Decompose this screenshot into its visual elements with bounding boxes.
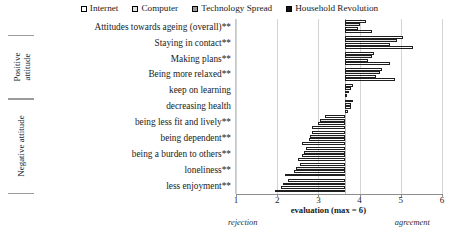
bar (275, 190, 345, 193)
legend-label-technology-spread: Technology Spread (201, 4, 272, 13)
bar-group (236, 83, 442, 99)
bar (310, 135, 345, 138)
bar (345, 52, 374, 55)
group-label: Negative attitude (16, 115, 26, 177)
bar (294, 170, 346, 173)
bar-group (236, 146, 442, 162)
bar (312, 131, 345, 134)
bar (302, 142, 345, 145)
chart-container: Internet Computer Technology Spread Hous… (0, 0, 459, 237)
legend-item-household-revolution: Household Revolution (286, 4, 378, 13)
bar (345, 71, 380, 74)
bar (345, 78, 394, 81)
legend-label-computer: Computer (141, 4, 178, 13)
bar-group (236, 67, 442, 83)
bar (345, 68, 382, 71)
bar (320, 119, 345, 122)
bar (281, 186, 345, 189)
category-label: being a burden to others** (33, 149, 231, 159)
category-label: decreasing health (33, 101, 231, 111)
category-label: being less fit and lively** (33, 117, 231, 127)
bar (318, 122, 345, 125)
tick-label-4: 4 (352, 195, 368, 205)
legend-item-technology-spread: Technology Spread (192, 4, 272, 13)
tick-label-1: 1 (228, 195, 244, 205)
legend-swatch-household-revolution (286, 6, 292, 12)
bar (345, 106, 350, 109)
bar (345, 110, 348, 113)
plot-area (236, 19, 442, 194)
bar (345, 43, 390, 46)
category-label: loneliness** (33, 165, 231, 175)
bar (345, 27, 357, 30)
bar (283, 183, 345, 186)
group-bracket-column: Positive attitudeNegative attitude (8, 19, 34, 194)
bar-group (236, 35, 442, 51)
legend-label-household-revolution: Household Revolution (295, 4, 378, 13)
bar-group (236, 99, 442, 115)
bar (296, 167, 345, 170)
bar (345, 46, 413, 49)
tick-label-3: 3 (310, 195, 326, 205)
bar (345, 23, 359, 26)
bar (345, 87, 351, 90)
bar (345, 39, 397, 42)
legend-label-internet: Internet (90, 4, 119, 13)
bar (345, 84, 353, 87)
bar (345, 20, 366, 23)
tick-label-6: 6 (434, 195, 450, 205)
chart-legend: Internet Computer Technology Spread Hous… (0, 2, 459, 16)
group-bracket: Negative attitude (8, 99, 34, 194)
bar (345, 103, 351, 106)
bar (345, 59, 368, 62)
category-label: Staying in contact** (33, 38, 231, 48)
bar (309, 138, 345, 141)
tick-label-5: 5 (393, 195, 409, 205)
bar (302, 154, 345, 157)
category-label: Making plans** (33, 54, 231, 64)
category-label: less enjoyment** (33, 181, 231, 191)
bar-group (236, 178, 442, 194)
x-axis-title: evaluation (max = 6) (228, 206, 428, 215)
bar (345, 62, 390, 65)
bar-group (236, 130, 442, 146)
axis-anchor-rejection: rejection (228, 218, 257, 227)
bar-group (236, 162, 442, 178)
bar (345, 55, 372, 58)
x-axis-line (236, 194, 442, 195)
tick-label-2: 2 (269, 195, 285, 205)
bar (304, 151, 345, 154)
group-bracket: Positive attitude (8, 35, 34, 99)
bar (300, 163, 345, 166)
bar-group (236, 19, 442, 35)
bar (345, 94, 347, 97)
bar-group (236, 114, 442, 130)
bar (345, 91, 349, 94)
bar (285, 174, 345, 177)
bar (345, 30, 372, 33)
category-label-column: Attitudes towards ageing (overall)**Stay… (34, 19, 236, 194)
bar (345, 36, 403, 39)
gridline-6 (442, 19, 443, 194)
category-label: Attitudes towards ageing (overall)** (33, 22, 231, 32)
bar (288, 179, 346, 182)
bar (312, 126, 345, 129)
legend-swatch-computer (132, 6, 138, 12)
bar (325, 115, 346, 118)
legend-swatch-internet (81, 6, 87, 12)
legend-swatch-technology-spread (192, 6, 198, 12)
bar (345, 75, 376, 78)
bar (306, 147, 345, 150)
axis-anchor-agreement: agreement (395, 218, 430, 227)
bar (345, 100, 353, 103)
legend-item-internet: Internet (81, 4, 119, 13)
group-label: Positive attitude (11, 52, 31, 81)
bar (298, 158, 345, 161)
legend-item-computer: Computer (132, 4, 178, 13)
category-label: keep on learning (33, 85, 231, 95)
bar-group (236, 51, 442, 67)
category-label: Being more relaxed** (33, 69, 231, 79)
category-label: being dependent** (33, 133, 231, 143)
